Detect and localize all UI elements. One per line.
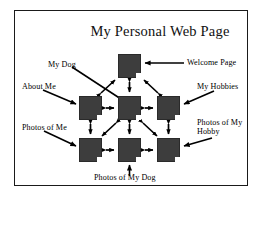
callout-line-my-hobbies — [184, 91, 214, 104]
link-mydog-photoshobby — [143, 123, 157, 136]
node-photos-of-me[interactable] — [79, 138, 102, 162]
callout-line-photos-of-me — [44, 131, 76, 146]
label-photos-of-my-hobby: Photos of My Hobby — [197, 118, 245, 137]
node-photos-of-dog[interactable] — [118, 138, 141, 162]
node-welcome[interactable] — [118, 54, 141, 78]
label-my-hobbies: My Hobbies — [197, 82, 238, 91]
label-about-me: About Me — [22, 82, 56, 91]
node-my-dog[interactable] — [118, 96, 141, 120]
link-mydog-photosofme — [102, 123, 116, 136]
node-about-me[interactable] — [79, 96, 102, 120]
node-my-hobbies[interactable] — [157, 96, 180, 120]
label-my-dog: My Dog — [48, 60, 76, 69]
label-photos-of-my-dog: Photos of My Dog — [94, 173, 156, 182]
callout-line-about-me — [43, 90, 76, 104]
label-photos-of-me: Photos of Me — [22, 123, 67, 132]
link-hobbies-welcome — [144, 80, 158, 93]
node-photos-hobby[interactable] — [157, 138, 180, 162]
label-welcome-page: Welcome Page — [187, 58, 236, 67]
callout-line-photos-hobby — [184, 138, 212, 146]
